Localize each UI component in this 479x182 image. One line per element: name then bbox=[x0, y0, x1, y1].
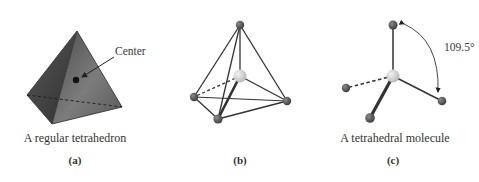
atom-front bbox=[365, 113, 375, 123]
solid-tetrahedron bbox=[27, 31, 122, 124]
center-label: Center bbox=[115, 45, 146, 57]
central-atom bbox=[234, 70, 247, 83]
atom-top bbox=[236, 21, 244, 29]
panel-label-a: (a) bbox=[69, 154, 82, 166]
atom-left bbox=[190, 93, 198, 101]
atom-top bbox=[389, 21, 398, 30]
atom-right bbox=[438, 97, 447, 106]
angle-arc bbox=[404, 24, 438, 92]
ball-stick-tetrahedron bbox=[190, 21, 291, 124]
atom-front bbox=[213, 114, 222, 123]
panel-label-c: (c) bbox=[387, 154, 399, 166]
central-atom bbox=[387, 70, 400, 83]
panel-label-b: (b) bbox=[233, 154, 246, 166]
center-dot bbox=[73, 77, 79, 83]
angle-label: 109.5° bbox=[444, 41, 474, 53]
tetrahedral-molecule bbox=[342, 21, 447, 123]
atom-back bbox=[342, 84, 350, 92]
caption-c: A tetrahedral molecule bbox=[340, 131, 449, 146]
caption-a: A regular tetrahedron bbox=[24, 131, 127, 146]
atom-right bbox=[283, 97, 291, 105]
